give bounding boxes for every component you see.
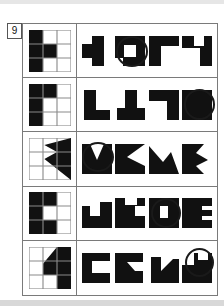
option-r1-o1[interactable] [82,31,112,71]
option-r2-o3[interactable] [149,85,179,125]
prompt-cell-row-4 [23,187,77,240]
figure-icon [115,33,145,69]
figure-icon [182,141,212,177]
figure-icon [82,87,112,123]
option-r2-o2[interactable] [115,85,145,125]
option-r4-o1[interactable] [82,193,112,233]
option-r4-o4[interactable] [182,193,212,233]
figure-icon [82,250,112,286]
worksheet-page: 9 [0,0,224,306]
option-r4-o2[interactable] [115,193,145,233]
option-r2-o1[interactable] [82,85,112,125]
table-row [23,241,217,295]
page-bottom-edge [0,300,224,306]
option-r5-o4[interactable] [182,248,212,288]
figure-icon [115,87,145,123]
figure-icon [115,250,145,286]
page-top-edge [0,0,224,4]
figure-icon [115,141,145,177]
figure-icon [82,141,112,177]
prompt-cell-row-3 [23,132,77,185]
figure-icon [149,141,179,177]
table-row [23,132,217,186]
options-cell-row-5 [77,241,217,295]
option-r1-o4[interactable] [182,31,212,71]
prompt-cell-row-2 [23,78,77,131]
option-r4-o3[interactable] [149,193,179,233]
grid-pattern-diagonal-shape-icon [29,247,71,289]
grid-pattern-h-shape-icon [29,30,71,72]
figure-icon [149,195,179,231]
grid-pattern-e-shape-icon [29,192,71,234]
option-r3-o4[interactable] [182,139,212,179]
table-row [23,78,217,132]
figure-icon [182,195,212,231]
figure-icon [82,195,112,231]
figure-icon [182,250,212,286]
option-r1-o2[interactable] [115,31,145,71]
question-table [22,23,218,296]
option-r1-o3[interactable] [149,31,179,71]
options-cell-row-2 [77,78,217,131]
table-row [23,187,217,241]
option-r3-o3[interactable] [149,139,179,179]
options-cell-row-3 [77,132,217,185]
option-r5-o1[interactable] [82,248,112,288]
figure-icon [82,33,112,69]
prompt-cell-row-1 [23,24,77,77]
option-r3-o1[interactable] [82,139,112,179]
figure-icon [149,87,179,123]
options-cell-row-1 [77,24,217,77]
figure-icon [149,250,179,286]
figure-icon [149,33,179,69]
item-number-badge: 9 [7,23,22,39]
option-r5-o3[interactable] [149,248,179,288]
grid-pattern-arrow-shape-icon [29,138,71,180]
grid-pattern-corner-shape-icon [29,84,71,126]
figure-icon [182,87,212,123]
option-r5-o2[interactable] [115,248,145,288]
table-row [23,24,217,78]
figure-icon [115,195,145,231]
figure-icon [182,33,212,69]
options-cell-row-4 [77,187,217,240]
option-r3-o2[interactable] [115,139,145,179]
option-r2-o4[interactable] [182,85,212,125]
prompt-cell-row-5 [23,241,77,295]
